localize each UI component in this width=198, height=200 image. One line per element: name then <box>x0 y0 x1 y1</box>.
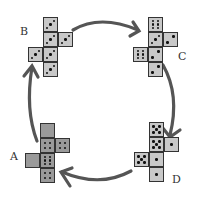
pip <box>152 146 154 148</box>
pip <box>44 163 46 165</box>
pip <box>49 53 51 55</box>
pip <box>166 41 168 43</box>
pip <box>44 142 46 144</box>
pip <box>158 125 160 127</box>
pip <box>157 50 159 52</box>
die-face-right-row2 <box>55 138 70 153</box>
pip <box>53 20 55 22</box>
die-face-col-row3 <box>43 47 58 62</box>
pip <box>143 161 145 163</box>
pip <box>59 142 61 144</box>
pip <box>49 142 51 144</box>
pip <box>49 159 51 161</box>
die-face-col-row3 <box>149 152 164 167</box>
pip <box>137 50 139 52</box>
pip <box>64 147 66 149</box>
pip <box>49 177 51 179</box>
die-face-left-row3 <box>28 47 43 62</box>
cycle-arrows <box>0 0 198 200</box>
pip <box>31 57 33 59</box>
pip <box>46 72 48 74</box>
label-d: D <box>172 173 181 186</box>
pip <box>44 159 46 161</box>
arrow-b-to-c <box>73 22 138 30</box>
die-face-col-row4 <box>148 62 163 77</box>
pip <box>157 20 159 22</box>
pip <box>49 68 51 70</box>
die-face-col-row1 <box>43 17 58 32</box>
pip <box>137 161 139 163</box>
pip <box>49 147 51 149</box>
pip <box>152 27 154 29</box>
pip <box>44 177 46 179</box>
die-face-col-row4 <box>43 62 58 77</box>
pip <box>154 38 156 40</box>
pip <box>155 128 157 130</box>
die-face-col-row2 <box>149 137 164 152</box>
pip <box>46 57 48 59</box>
pip <box>151 71 153 73</box>
die-face-right-row2 <box>58 32 73 47</box>
die-face-col-row2 <box>40 138 55 153</box>
pip <box>49 38 51 40</box>
pip <box>137 53 139 55</box>
pip <box>142 53 144 55</box>
label-b: B <box>20 25 28 38</box>
die-face-col-row3 <box>148 47 163 62</box>
pip <box>142 57 144 59</box>
pip <box>34 53 36 55</box>
pip <box>53 50 55 52</box>
pip <box>68 35 70 37</box>
pip <box>157 65 159 67</box>
pip <box>151 56 153 58</box>
pip <box>49 163 51 165</box>
die-face-right-row2 <box>163 32 178 47</box>
die-face-left-row3 <box>25 153 40 168</box>
arrow-d-to-a-head <box>61 168 72 186</box>
pip <box>137 57 139 59</box>
pip <box>49 172 51 174</box>
pip <box>151 42 153 44</box>
pip <box>142 50 144 52</box>
pip <box>49 23 51 25</box>
pip <box>170 143 172 145</box>
pip <box>44 156 46 158</box>
arrow-c-to-d <box>163 65 174 135</box>
label-a: A <box>10 150 18 163</box>
pip <box>61 42 63 44</box>
die-face-col-row1 <box>40 123 55 138</box>
pip <box>152 23 154 25</box>
pip <box>49 156 51 158</box>
pip <box>155 143 157 145</box>
pip <box>158 140 160 142</box>
pip <box>155 158 157 160</box>
die-face-left-row3 <box>133 47 148 62</box>
pip <box>157 27 159 29</box>
pip <box>158 146 160 148</box>
pip <box>158 35 160 37</box>
pip <box>44 147 46 149</box>
pip <box>44 172 46 174</box>
die-face-right-row2 <box>164 137 179 152</box>
pip <box>140 158 142 160</box>
pip <box>172 35 174 37</box>
pip <box>152 131 154 133</box>
pip <box>157 23 159 25</box>
pip <box>152 20 154 22</box>
arrow-d-to-a <box>62 171 131 180</box>
arrow-a-to-b <box>29 67 37 141</box>
pip <box>38 50 40 52</box>
die-face-col-row2 <box>43 32 58 47</box>
die-face-col-row1 <box>149 122 164 137</box>
pip <box>53 35 55 37</box>
pip <box>59 147 61 149</box>
die-face-col-row2 <box>148 32 163 47</box>
pip <box>143 155 145 157</box>
die-face-left-row3 <box>134 152 149 167</box>
pip <box>64 38 66 40</box>
pip <box>53 65 55 67</box>
pip <box>158 131 160 133</box>
die-face-col-row4 <box>40 168 55 183</box>
pip <box>64 142 66 144</box>
pip <box>155 173 157 175</box>
